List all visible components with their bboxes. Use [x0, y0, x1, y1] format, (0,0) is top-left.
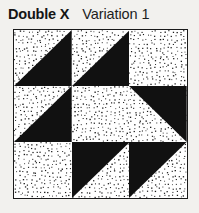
quilt-cell-middle-center: [72, 86, 130, 142]
quilt-cell-top-left: [14, 30, 72, 86]
quilt-grid: [14, 30, 187, 198]
block-title-row: Double X Variation 1: [0, 0, 199, 27]
quilt-block-diagram: [13, 29, 188, 199]
variation-label: Variation 1: [82, 6, 149, 22]
block-name: Double X: [8, 6, 69, 22]
quilt-cell-bottom-center: [72, 142, 130, 198]
quilt-cell-bottom-left: [14, 142, 72, 198]
quilt-cell-top-right: [129, 30, 187, 86]
quilt-cell-top-center: [72, 30, 130, 86]
quilt-cell-middle-left: [14, 86, 72, 142]
quilt-cell-middle-right: [129, 86, 187, 142]
quilt-cell-bottom-right: [129, 142, 187, 198]
